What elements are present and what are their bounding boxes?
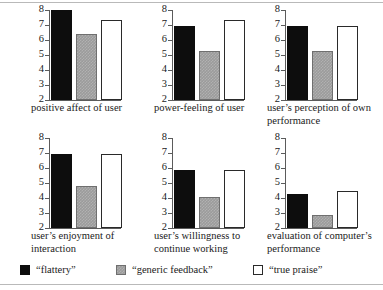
y-tick-mark bbox=[168, 100, 173, 101]
figure-root: 8765432positive affect of user 8765432po… bbox=[0, 0, 383, 290]
plot-area: 8765432 bbox=[172, 138, 244, 228]
plot-area: 8765432 bbox=[285, 10, 357, 100]
y-tick-label: 5 bbox=[264, 48, 280, 60]
y-tick: 2 bbox=[49, 100, 50, 101]
y-tick-label: 7 bbox=[151, 146, 167, 158]
bar-flattery bbox=[51, 10, 72, 100]
x-axis-baseline bbox=[172, 100, 244, 101]
plot-area: 8765432 bbox=[49, 138, 121, 228]
bar-group bbox=[286, 138, 357, 228]
x-axis-baseline bbox=[285, 228, 357, 229]
y-tick: 2 bbox=[49, 228, 50, 229]
y-tick-label: 6 bbox=[264, 33, 280, 45]
bar-truepraise bbox=[224, 20, 245, 100]
y-tick-label: 6 bbox=[151, 33, 167, 45]
panel-caption: positive affect of user bbox=[31, 102, 149, 115]
legend-swatch-generic-feedback-icon bbox=[116, 265, 126, 275]
y-tick-label: 3 bbox=[28, 78, 44, 90]
x-axis-baseline bbox=[49, 100, 121, 101]
y-tick: 2 bbox=[285, 228, 286, 229]
y-tick-label: 4 bbox=[28, 191, 44, 203]
bar-generic bbox=[199, 51, 220, 100]
chart-panel-2: 8765432user’s perception of own performa… bbox=[253, 6, 381, 134]
y-tick-label: 8 bbox=[28, 131, 44, 143]
y-tick: 2 bbox=[172, 100, 173, 101]
bar-generic bbox=[76, 34, 97, 100]
y-tick-label: 6 bbox=[28, 161, 44, 173]
plot-area: 8765432 bbox=[172, 10, 244, 100]
bar-truepraise bbox=[101, 154, 122, 228]
y-tick-label: 8 bbox=[264, 3, 280, 15]
bar-generic bbox=[312, 51, 333, 101]
charts-grid: 8765432positive affect of user 8765432po… bbox=[0, 6, 383, 262]
chart-row-bottom: 8765432user’s enjoyment of interaction 8… bbox=[0, 134, 383, 262]
bar-group bbox=[173, 10, 244, 100]
y-tick-label: 3 bbox=[28, 206, 44, 218]
bar-group bbox=[50, 138, 121, 228]
bar-truepraise bbox=[224, 170, 245, 228]
chart-panel-0: 8765432positive affect of user bbox=[17, 6, 145, 134]
legend-label-true-praise: “true praise” bbox=[269, 264, 322, 276]
bar-flattery bbox=[287, 194, 308, 229]
chart-panel-1: 8765432power-feeling of user bbox=[140, 6, 268, 134]
x-axis-baseline bbox=[285, 100, 357, 101]
y-tick-mark bbox=[168, 228, 173, 229]
figure-bottom-rule bbox=[0, 284, 383, 285]
y-tick-label: 5 bbox=[28, 48, 44, 60]
y-tick: 2 bbox=[172, 228, 173, 229]
bar-group bbox=[50, 10, 121, 100]
y-tick-label: 6 bbox=[264, 161, 280, 173]
chart-panel-4: 8765432user’s willingness to continue wo… bbox=[140, 134, 268, 262]
y-tick-label: 5 bbox=[28, 176, 44, 188]
y-tick-label: 3 bbox=[264, 206, 280, 218]
y-tick-label: 4 bbox=[264, 191, 280, 203]
y-tick: 2 bbox=[285, 100, 286, 101]
bar-truepraise bbox=[337, 191, 358, 228]
y-tick-mark bbox=[281, 100, 286, 101]
y-tick-label: 7 bbox=[264, 146, 280, 158]
panel-caption: user’s perception of own performance bbox=[267, 102, 383, 127]
y-tick-label: 4 bbox=[28, 63, 44, 75]
figure-top-rule bbox=[0, 2, 383, 3]
y-tick-label: 3 bbox=[264, 78, 280, 90]
legend-swatch-flattery-icon bbox=[20, 265, 30, 275]
y-tick-label: 4 bbox=[264, 63, 280, 75]
y-tick-mark bbox=[45, 100, 50, 101]
y-tick-label: 7 bbox=[28, 18, 44, 30]
y-tick-label: 5 bbox=[264, 176, 280, 188]
y-tick-label: 8 bbox=[264, 131, 280, 143]
legend-label-flattery: “flattery” bbox=[36, 264, 76, 276]
legend: “flattery” “generic feedback” “true prai… bbox=[0, 263, 383, 279]
y-tick-label: 4 bbox=[151, 191, 167, 203]
bar-flattery bbox=[287, 26, 308, 100]
y-tick-label: 6 bbox=[151, 161, 167, 173]
y-tick-label: 7 bbox=[264, 18, 280, 30]
y-tick-label: 5 bbox=[151, 176, 167, 188]
chart-row-top: 8765432positive affect of user 8765432po… bbox=[0, 6, 383, 134]
y-tick-label: 4 bbox=[151, 63, 167, 75]
panel-caption: user’s enjoyment of interaction bbox=[31, 230, 149, 255]
plot-area: 8765432 bbox=[285, 138, 357, 228]
bar-generic bbox=[76, 186, 97, 228]
chart-panel-5: 8765432evaluation of computer’s performa… bbox=[253, 134, 381, 262]
bar-group bbox=[173, 138, 244, 228]
y-tick-label: 6 bbox=[28, 33, 44, 45]
legend-swatch-true-praise-icon bbox=[253, 265, 263, 275]
y-tick-label: 3 bbox=[151, 78, 167, 90]
y-tick-label: 8 bbox=[151, 131, 167, 143]
legend-item-generic-feedback: “generic feedback” bbox=[116, 263, 213, 277]
bar-truepraise bbox=[337, 26, 358, 100]
plot-area: 8765432 bbox=[49, 10, 121, 100]
bar-group bbox=[286, 10, 357, 100]
x-axis-baseline bbox=[49, 228, 121, 229]
legend-label-generic-feedback: “generic feedback” bbox=[132, 264, 213, 276]
y-tick-mark bbox=[281, 228, 286, 229]
legend-item-true-praise: “true praise” bbox=[253, 263, 322, 277]
bar-generic bbox=[199, 197, 220, 228]
bar-truepraise bbox=[101, 20, 122, 100]
bar-generic bbox=[312, 215, 333, 229]
chart-panel-3: 8765432user’s enjoyment of interaction bbox=[17, 134, 145, 262]
x-axis-baseline bbox=[172, 228, 244, 229]
bar-flattery bbox=[174, 170, 195, 228]
y-tick-label: 5 bbox=[151, 48, 167, 60]
